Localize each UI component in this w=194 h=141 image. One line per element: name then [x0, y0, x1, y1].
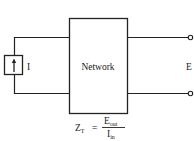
svg-text:Iin: Iin [107, 129, 115, 140]
svg-text:=: = [92, 123, 97, 133]
output-label: E [186, 62, 192, 72]
svg-text:Eout: Eout [104, 116, 118, 127]
input-wire-top [15, 38, 70, 56]
network-diagram: Network I E ZT = Eout Iin [0, 0, 194, 141]
network-label: Network [81, 62, 114, 72]
output-terminal-bottom [188, 91, 192, 95]
source-label: I [27, 62, 30, 72]
svg-text:ZT: ZT [75, 123, 85, 134]
impedance-formula: ZT = Eout Iin [75, 116, 125, 140]
current-source-icon [5, 56, 23, 75]
input-wire-bottom [15, 75, 70, 94]
output-terminal-top [188, 35, 192, 39]
